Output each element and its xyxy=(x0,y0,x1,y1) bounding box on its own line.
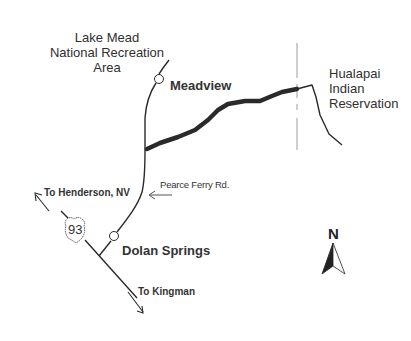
dolan-springs-connector xyxy=(99,241,111,256)
hualapai-line-2: Indian xyxy=(329,82,398,97)
us-93-shield-label: 93 xyxy=(68,223,82,238)
hualapai-line-3: Reservation xyxy=(329,97,398,112)
meadview-town-marker-icon xyxy=(155,75,164,84)
pearce-ferry-pointer-arrow xyxy=(149,191,172,199)
north-arrow-icon xyxy=(322,243,345,274)
kingman-direction-label: To Kingman xyxy=(138,286,195,298)
hualapai-line-1: Hualapai xyxy=(329,67,398,82)
lake-mead-line-1: Lake Mead xyxy=(49,31,165,46)
pearce-ferry-road xyxy=(117,83,156,232)
henderson-direction-label: To Henderson, NV xyxy=(44,187,130,199)
dolan-springs-label: Dolan Springs xyxy=(122,244,210,259)
us-93-road-north xyxy=(61,211,68,218)
north-label: N xyxy=(328,225,339,242)
lake-mead-line-3: Area xyxy=(49,61,165,76)
thick-road xyxy=(147,89,297,149)
dolan-springs-town-marker-icon xyxy=(110,232,119,241)
meadview-label: Meadview xyxy=(170,79,231,94)
lake-mead-line-2: National Recreation xyxy=(49,46,165,61)
lake-mead-label: Lake Mead National Recreation Area xyxy=(49,31,165,76)
hualapai-label: Hualapai Indian Reservation xyxy=(329,67,398,112)
pearce-ferry-road-label: Pearce Ferry Rd. xyxy=(160,180,229,191)
